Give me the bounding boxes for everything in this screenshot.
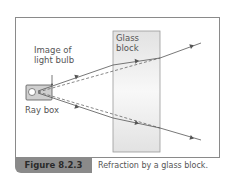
ray-box-label: Ray box: [25, 105, 59, 115]
image-of-light-bulb-label: Image of light bulb: [34, 45, 74, 65]
figure-frame: Image of light bulb Ray box Glass block: [15, 17, 220, 158]
figure-caption: Refraction by a glass block.: [98, 158, 208, 173]
glass-block-label: Glass block: [116, 33, 139, 53]
figure-number: Figure 8.2.3: [15, 158, 92, 173]
light-bulb-icon: [29, 89, 36, 96]
